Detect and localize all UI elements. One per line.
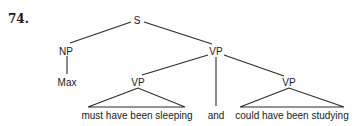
triangle-vp2 <box>240 88 344 107</box>
leaf-conjunct-1: must have been sleeping <box>81 110 192 121</box>
node-s: S <box>134 15 141 26</box>
edge-s-vp <box>144 22 212 44</box>
node-vp-conjunct-2: VP <box>282 77 296 88</box>
syntax-tree: S NP Max VP VP VP must have been sleepin… <box>0 0 356 126</box>
triangle-vp1 <box>88 88 185 107</box>
node-vp-main: VP <box>209 46 223 57</box>
node-np: NP <box>59 46 73 57</box>
leaf-max: Max <box>58 77 77 88</box>
edge-s-np <box>70 22 131 43</box>
leaf-conjunct-2: could have been studying <box>235 110 348 121</box>
leaf-and: and <box>208 110 225 121</box>
edge-vp-vp1 <box>142 55 208 75</box>
edge-vp-vp2 <box>224 55 284 76</box>
node-vp-conjunct-1: VP <box>131 77 145 88</box>
